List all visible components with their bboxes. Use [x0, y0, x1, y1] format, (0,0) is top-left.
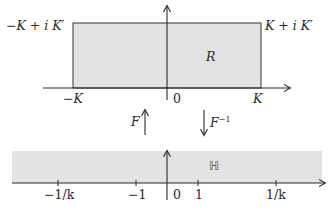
region-label-h: ℍ	[209, 160, 219, 172]
axis-label-origin: 0	[173, 93, 181, 106]
tick-label-origin: 0	[173, 189, 181, 202]
inverse-map-label: F−1	[210, 116, 230, 130]
tick-label-neg-one: −1	[128, 189, 146, 202]
region-label-r: R	[206, 51, 215, 64]
axis-label-pos-k: K	[253, 93, 262, 106]
diagram-canvas: −K + i K′ K + i K′ R −K 0 K F F−1 ℍ −1/k…	[0, 0, 331, 209]
tick-label-neg-inv-k: −1/k	[44, 189, 74, 202]
forward-map-label: F	[131, 116, 140, 129]
tick-label-one: 1	[195, 189, 203, 202]
corner-label-top-left: −K + i K′	[6, 20, 64, 33]
inverse-map-base: F	[210, 115, 219, 130]
corner-label-top-right: K + i K′	[265, 20, 313, 33]
tick-label-inv-k: 1/k	[266, 189, 286, 202]
axis-label-neg-k: −K	[63, 93, 83, 106]
inverse-map-superscript: −1	[219, 115, 231, 124]
